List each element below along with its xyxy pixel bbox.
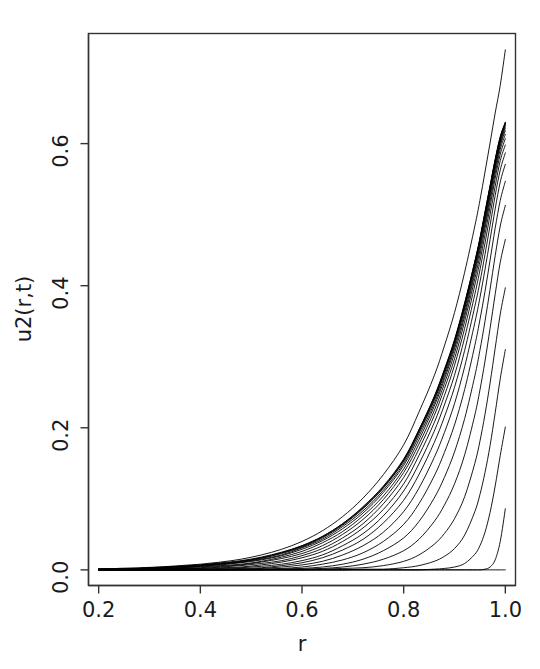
y-axis-tick-label: 0.4 [50, 276, 74, 309]
x-axis-tick-label: 0.6 [285, 598, 318, 622]
x-axis-tick-label: 0.4 [184, 598, 217, 622]
line-chart: 0.00.20.40.6 0.20.40.60.81.0 r u2(r,t) [0, 0, 540, 669]
y-axis-tick-label: 0.0 [50, 561, 74, 594]
x-axis-tick-label: 1.0 [489, 598, 522, 622]
figure-container: 0.00.20.40.6 0.20.40.60.81.0 r u2(r,t) [0, 0, 540, 669]
x-axis-title: r [298, 632, 307, 656]
y-axis-tick-label: 0.2 [50, 419, 74, 452]
x-axis-tick-label: 0.8 [387, 598, 420, 622]
y-axis-title: u2(r,t) [12, 276, 36, 343]
y-axis-tick-label: 0.6 [50, 134, 74, 167]
x-axis-tick-label: 0.2 [82, 598, 115, 622]
